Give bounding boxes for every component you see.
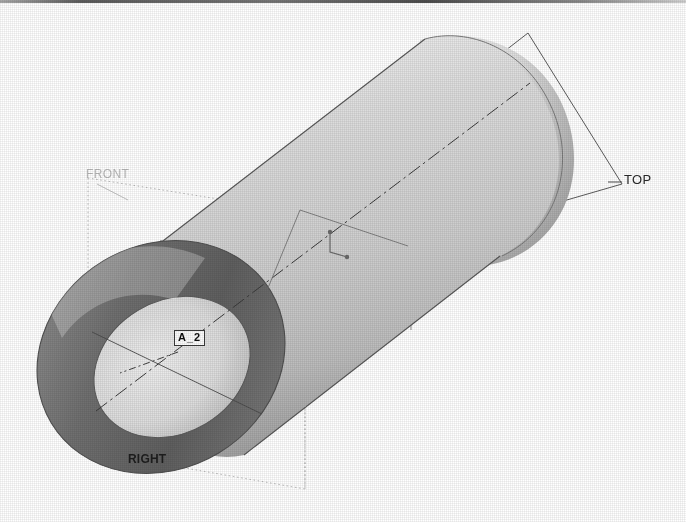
cad-model-canvas xyxy=(0,0,686,522)
datum-plane-front-leader xyxy=(97,184,128,200)
scan-edge-artifact xyxy=(0,0,686,3)
cad-viewport[interactable]: TOP FRONT RIGHT A_2 xyxy=(0,0,686,522)
